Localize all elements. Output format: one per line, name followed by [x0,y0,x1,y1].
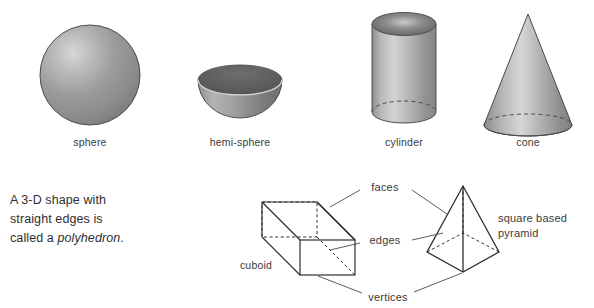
shape-label-square-pyramid: square based pyramid [498,211,567,240]
shape-label-sphere: sphere [40,136,140,148]
note-term-polyhedron: polyhedron [57,231,120,245]
callout-label-faces: faces [345,181,425,193]
callout-label-vertices: vertices [348,291,428,303]
pyramid-label-line-1: square based [498,212,567,224]
note-line-3-suffix: . [120,231,124,245]
geometry-3d-shapes-figure: sphere hemi-sphere cylinder cone A 3-D s… [0,0,594,308]
leader-lines-faces [330,190,447,214]
shape-label-cylinder: cylinder [354,136,454,148]
polyhedron-note: A 3-D shape with straight edges is calle… [10,191,180,248]
shape-label-cone: cone [478,136,578,148]
note-line-1: A 3-D shape with [10,193,106,207]
pyramid-label-line-2: pyramid [498,227,539,239]
shape-label-cuboid: cuboid [228,259,284,271]
polyhedra-layer [0,0,594,308]
shape-label-hemi-sphere: hemi-sphere [190,136,290,148]
note-line-3-prefix: called a [10,231,57,245]
square-pyramid-shape [427,186,499,272]
note-line-2: straight edges is [10,212,103,226]
leader-lines-vertices [318,273,462,293]
callout-label-edges: edges [345,234,425,246]
